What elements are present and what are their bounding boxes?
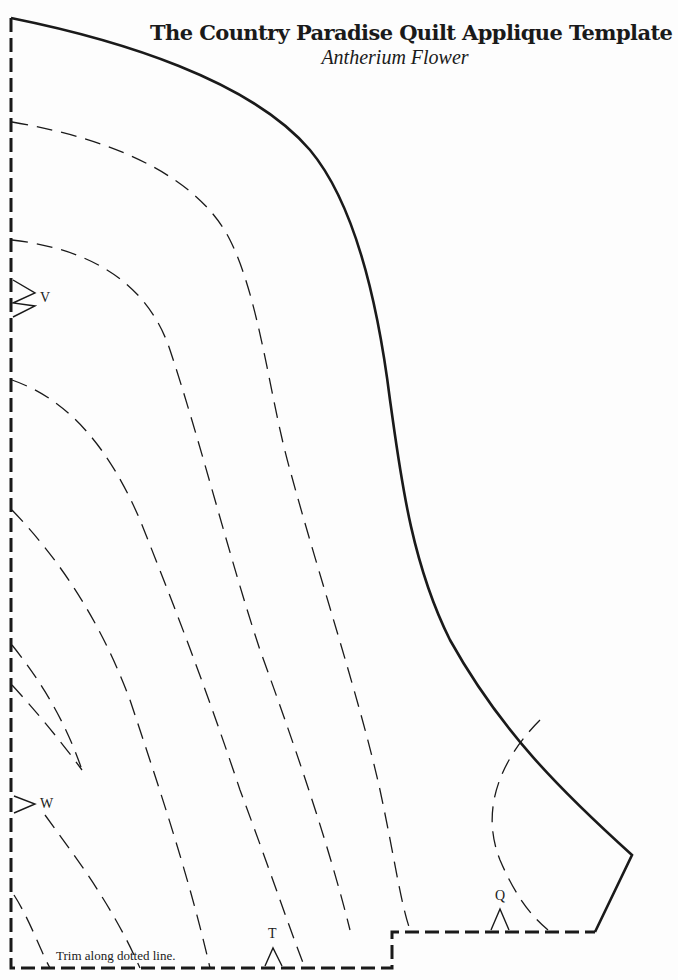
document-subtitle: Antherium Flower [230,46,560,69]
trim-border [11,18,595,968]
guide-lines [12,122,548,968]
marker-label-w: W [40,796,53,812]
w-notch-marker [14,796,35,813]
applique-template-drawing [0,0,678,980]
t-notch-marker [265,948,282,966]
document-title: The Country Paradise Quilt Applique Temp… [150,20,655,45]
trim-instruction: Trim along dotted line. [56,948,175,964]
marker-label-t: T [268,926,277,942]
marker-label-v: V [40,290,50,306]
q-notch-marker [491,909,509,930]
v-notch-marker [13,280,35,317]
marker-label-q: Q [495,888,505,904]
template-page: The Country Paradise Quilt Applique Temp… [0,0,678,980]
petal-outline [11,18,632,932]
